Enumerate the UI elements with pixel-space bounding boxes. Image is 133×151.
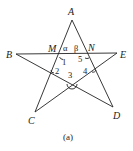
angle-label-1: 1 — [62, 57, 66, 67]
segment-b-e — [16, 53, 117, 54]
pentagram-figure: A B C D E M N α β 1 2 3 4 5 (a) — [0, 0, 133, 151]
angle-label-5: 5 — [78, 54, 82, 64]
pentagram-diagram: A B C D E M N α β 1 2 3 4 5 (a) — [0, 0, 133, 151]
figure-caption: (a) — [63, 132, 73, 142]
angle-label-2: 2 — [55, 66, 59, 76]
vertex-label-e: E — [119, 49, 126, 60]
angle-label-3: 3 — [68, 70, 72, 80]
vertex-label-d: D — [112, 110, 121, 121]
vertex-label-c: C — [28, 115, 35, 126]
angle-arc-2 — [51, 70, 54, 73]
vertex-label-b: B — [6, 49, 12, 60]
angle-label-beta: β — [74, 43, 78, 53]
angle-label-alpha: α — [63, 43, 68, 53]
vertex-label-a: A — [67, 6, 75, 17]
point-label-n: N — [87, 42, 96, 53]
angle-arc-n — [85, 58, 89, 59]
point-label-m: M — [47, 43, 57, 54]
